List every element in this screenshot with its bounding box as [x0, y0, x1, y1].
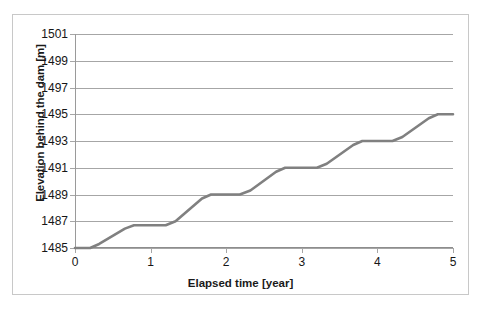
series-polyline — [75, 114, 453, 248]
y-tick-label: 1499 — [41, 55, 68, 67]
x-tick-label: 5 — [450, 256, 457, 268]
x-tick-label: 0 — [72, 256, 79, 268]
y-tick-label: 1489 — [41, 189, 68, 201]
x-tick-label: 2 — [223, 256, 230, 268]
y-tick-label: 1501 — [41, 28, 68, 40]
x-tick-mark — [377, 248, 378, 253]
y-tick-label: 1485 — [41, 242, 68, 254]
x-tick-label: 4 — [374, 256, 381, 268]
chart-frame: Elevation behind the dam [m] Elapsed tim… — [12, 14, 469, 295]
y-tick-label: 1493 — [41, 135, 68, 147]
y-tick-label: 1497 — [41, 82, 68, 94]
y-tick-label: 1487 — [41, 215, 68, 227]
x-tick-mark — [226, 248, 227, 253]
x-tick-mark — [453, 248, 454, 253]
x-axis-title: Elapsed time [year] — [13, 277, 468, 289]
y-axis-title: Elevation behind the dam [m] — [34, 8, 46, 238]
plot-area: 148514871489149114931495149714991501 012… — [75, 34, 453, 248]
x-tick-mark — [151, 248, 152, 253]
chart-plot-wrapper: Elevation behind the dam [m] Elapsed tim… — [13, 15, 468, 294]
y-tick-label: 1491 — [41, 162, 68, 174]
y-tick-label: 1495 — [41, 108, 68, 120]
gridline-y — [75, 248, 453, 249]
x-tick-label: 3 — [298, 256, 305, 268]
series-line-elevation — [75, 34, 453, 248]
x-tick-label: 1 — [147, 256, 154, 268]
x-tick-mark — [302, 248, 303, 253]
